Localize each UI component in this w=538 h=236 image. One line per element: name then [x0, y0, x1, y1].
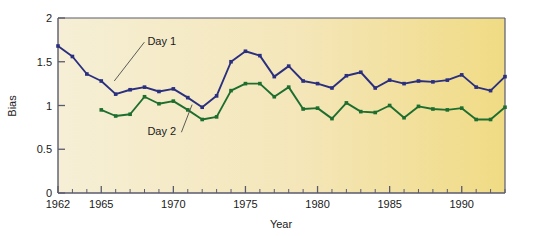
annotation-label: Day 2 — [147, 125, 176, 137]
data-point-marker — [56, 44, 60, 48]
data-point-marker — [229, 60, 233, 64]
data-point-marker — [258, 82, 262, 86]
data-point-marker — [301, 79, 305, 83]
data-point-marker — [345, 74, 349, 78]
data-point-marker — [143, 85, 147, 89]
x-tick-label: 1962 — [46, 198, 70, 210]
y-tick-label: 1.5 — [37, 56, 52, 68]
data-point-marker — [474, 85, 478, 89]
x-tick-label: 1985 — [377, 198, 401, 210]
data-point-marker — [157, 90, 161, 94]
data-point-marker — [287, 85, 291, 89]
y-tick-label: 0.5 — [37, 143, 52, 155]
data-point-marker — [85, 72, 89, 76]
data-point-marker — [417, 79, 421, 83]
data-point-marker — [200, 105, 204, 109]
data-point-marker — [446, 78, 450, 82]
data-point-marker — [460, 73, 464, 77]
y-tick-label: 1 — [46, 100, 52, 112]
data-point-marker — [128, 112, 132, 116]
data-point-marker — [373, 86, 377, 90]
data-point-marker — [301, 107, 305, 111]
data-point-marker — [258, 54, 262, 58]
data-point-marker — [359, 70, 363, 74]
data-point-marker — [503, 75, 507, 79]
data-point-marker — [244, 82, 248, 86]
data-point-marker — [272, 95, 276, 99]
data-point-marker — [186, 108, 190, 112]
annotation-label: Day 1 — [147, 35, 176, 47]
data-point-marker — [128, 88, 132, 92]
data-point-marker — [446, 108, 450, 112]
y-tick-label: 2 — [46, 12, 52, 24]
data-point-marker — [114, 92, 118, 96]
data-point-marker — [330, 117, 334, 121]
data-point-marker — [316, 82, 320, 86]
data-point-marker — [489, 89, 493, 93]
data-point-marker — [287, 64, 291, 68]
data-point-marker — [489, 118, 493, 122]
bias-by-year-line-chart: 00.511.52 Bias 1962196519701975198019851… — [0, 0, 538, 236]
data-point-marker — [71, 55, 75, 59]
data-point-marker — [244, 49, 248, 53]
x-tick-label: 1975 — [233, 198, 257, 210]
data-point-marker — [215, 94, 219, 98]
data-point-marker — [388, 78, 392, 82]
data-point-marker — [172, 87, 176, 91]
chart-figure: 00.511.52 Bias 1962196519701975198019851… — [0, 0, 538, 236]
data-point-marker — [157, 102, 161, 106]
x-tick-label: 1965 — [89, 198, 113, 210]
data-point-marker — [114, 114, 118, 118]
data-point-marker — [229, 89, 233, 93]
data-point-marker — [143, 95, 147, 99]
data-point-marker — [417, 105, 421, 109]
data-point-marker — [99, 79, 103, 83]
data-point-marker — [272, 75, 276, 79]
data-point-marker — [186, 96, 190, 100]
data-point-marker — [402, 82, 406, 86]
x-tick-label: 1990 — [449, 198, 473, 210]
y-axis-title: Bias — [6, 95, 18, 117]
data-point-marker — [460, 106, 464, 110]
x-tick-label: 1970 — [161, 198, 185, 210]
data-point-marker — [431, 80, 435, 84]
data-point-marker — [172, 99, 176, 103]
data-point-marker — [99, 108, 103, 112]
data-point-marker — [373, 111, 377, 115]
x-axis-title: Year — [270, 218, 293, 230]
data-point-marker — [330, 86, 334, 90]
data-point-marker — [200, 118, 204, 122]
data-point-marker — [345, 101, 349, 105]
data-point-marker — [474, 118, 478, 122]
data-point-marker — [316, 106, 320, 110]
plot-area-background — [58, 18, 505, 193]
x-tick-label: 1980 — [305, 198, 329, 210]
data-point-marker — [431, 107, 435, 111]
data-point-marker — [388, 104, 392, 108]
data-point-marker — [359, 110, 363, 114]
data-point-marker — [503, 105, 507, 109]
data-point-marker — [215, 115, 219, 119]
data-point-marker — [402, 116, 406, 120]
